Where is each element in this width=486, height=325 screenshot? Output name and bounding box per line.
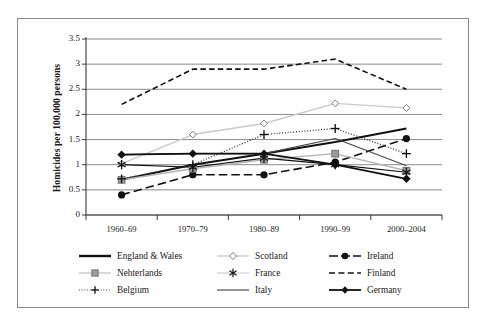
chart-frame: Homicides per 100,000 persons 00.511.522… xyxy=(17,18,469,308)
line-solid-diamond-filled-icon xyxy=(328,284,362,296)
y-tick-label: 1 xyxy=(38,159,80,169)
legend-row: Belgium Italy Germany xyxy=(78,281,418,298)
y-tick-marks xyxy=(82,39,86,215)
x-tick-label: 2000–2004 xyxy=(371,224,441,234)
y-tick-label: 3 xyxy=(38,58,80,68)
series-line xyxy=(122,59,407,104)
legend-item-finland[interactable]: Finland xyxy=(328,267,418,279)
y-tick-label: 1.5 xyxy=(38,134,80,144)
legend-item-belgium[interactable]: Belgium xyxy=(78,284,216,296)
line-gray-asterisk-icon xyxy=(216,267,250,279)
x-tick-label: 1960–69 xyxy=(87,224,157,234)
line-dotted-plus-icon xyxy=(78,284,112,296)
legend-item-england-wales[interactable]: England & Wales xyxy=(78,250,216,262)
x-tick-label: 1980–89 xyxy=(229,224,299,234)
legend-item-scotland[interactable]: Scotland xyxy=(216,250,328,262)
legend-row: England & Wales Scotland Ireland xyxy=(78,247,418,264)
legend-label: Italy xyxy=(255,285,272,295)
legend-label: Finland xyxy=(367,268,395,278)
y-tick-label: 0 xyxy=(38,209,80,219)
x-tick-marks xyxy=(86,215,442,220)
legend-label: Germany xyxy=(367,285,402,295)
line-gray-square-hatched-icon xyxy=(78,267,112,279)
line-gray-diamond-open-icon xyxy=(216,250,250,262)
legend-item-ireland[interactable]: Ireland xyxy=(328,250,418,262)
y-tick-label: 2 xyxy=(38,108,80,118)
x-tick-label: 1970–79 xyxy=(158,224,228,234)
y-tick-label: 2.5 xyxy=(38,83,80,93)
legend-label: Belgium xyxy=(117,285,149,295)
legend-item-italy[interactable]: Italy xyxy=(216,284,328,296)
legend-label: Scotland xyxy=(255,251,288,261)
legend-label: Ireland xyxy=(367,251,393,261)
legend-item-nehterlands[interactable]: Nehterlands xyxy=(78,267,216,279)
y-tick-label: 3.5 xyxy=(38,33,80,43)
line-dashed-black-icon xyxy=(328,267,362,279)
line-solid-thick-black-icon xyxy=(78,250,112,262)
legend-item-france[interactable]: France xyxy=(216,267,328,279)
y-tick-label: 0.5 xyxy=(38,184,80,194)
line-dash-circle-filled-icon xyxy=(328,250,362,262)
x-tick-label: 1990–99 xyxy=(300,224,370,234)
legend-row: Nehterlands France Finland xyxy=(78,264,418,281)
legend-item-germany[interactable]: Germany xyxy=(328,284,418,296)
legend-label: Nehterlands xyxy=(117,268,162,278)
chart-figure: Homicides per 100,000 persons 00.511.522… xyxy=(0,0,486,325)
line-solid-thin-black-icon xyxy=(216,284,250,296)
chart-legend: England & Wales Scotland Ireland Nehterl… xyxy=(78,247,418,298)
data-series-layer xyxy=(117,59,411,198)
legend-label: France xyxy=(255,268,280,278)
legend-label: England & Wales xyxy=(117,251,182,261)
